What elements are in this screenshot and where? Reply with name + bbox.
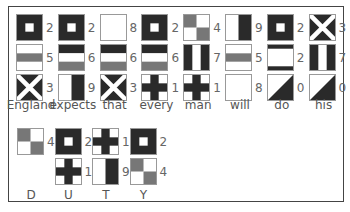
flag-digit: 1 bbox=[122, 135, 130, 149]
signal-flag-diagram: 253England269expects863that261every471ma… bbox=[8, 6, 344, 202]
plain-white-flag-icon bbox=[225, 74, 252, 101]
flag-digit: 9 bbox=[122, 165, 130, 179]
flag-cell: 7 bbox=[183, 44, 225, 74]
quartered-flag-icon bbox=[17, 128, 44, 155]
flag-digit: 2 bbox=[46, 21, 54, 35]
horizontal-stripes-flag-icon bbox=[225, 44, 252, 71]
flag-cell: 2 bbox=[141, 14, 183, 44]
flag-digit: 0 bbox=[297, 81, 305, 95]
flag-cell: 2 bbox=[58, 14, 100, 44]
word-label: his bbox=[299, 98, 349, 112]
letter-label: D bbox=[11, 188, 51, 202]
flag-digit: 4 bbox=[160, 165, 168, 179]
flag-digit: 9 bbox=[255, 21, 263, 35]
vertical-halves-flag-icon bbox=[225, 14, 252, 41]
flag-digit: 8 bbox=[130, 21, 138, 35]
plain-white-flag-icon bbox=[100, 14, 127, 41]
flag-digit: 2 bbox=[171, 21, 179, 35]
flag-digit: 2 bbox=[88, 21, 96, 35]
flag-digit: 3 bbox=[339, 21, 347, 35]
black-square-flag-icon bbox=[16, 14, 43, 41]
flag-digit: 7 bbox=[213, 51, 221, 65]
flag-cell: 1 bbox=[55, 158, 97, 188]
flag-cell: 4 bbox=[183, 14, 225, 44]
flag-cell: 2 bbox=[16, 14, 58, 44]
flag-digit: 6 bbox=[130, 51, 138, 65]
vertical-halves-flag-icon bbox=[58, 74, 85, 101]
flag-cell: 2 bbox=[267, 14, 309, 44]
letter-label: U bbox=[49, 188, 89, 202]
flag-digit: 4 bbox=[47, 135, 55, 149]
flag-digit: 2 bbox=[297, 21, 305, 35]
flag-digit: 8 bbox=[255, 81, 263, 95]
flag-digit: 1 bbox=[213, 81, 221, 95]
cross-flag-icon bbox=[92, 128, 119, 155]
vertical-stripes-flag-icon bbox=[183, 44, 210, 71]
flag-digit: 3 bbox=[130, 81, 138, 95]
vertical-halves-flag-icon bbox=[92, 158, 119, 185]
saltire-flag-icon bbox=[309, 14, 336, 41]
saltire-flag-icon bbox=[100, 74, 127, 101]
flag-digit: 2 bbox=[297, 51, 305, 65]
flag-digit: 0 bbox=[339, 81, 347, 95]
flag-cell: 2 bbox=[55, 128, 97, 158]
flag-cell: 6 bbox=[58, 44, 100, 74]
flag-digit: 4 bbox=[213, 21, 221, 35]
flag-cell: 9 bbox=[225, 14, 267, 44]
flag-cell: 8 bbox=[100, 14, 142, 44]
flag-digit: 5 bbox=[255, 51, 263, 65]
flag-cell: 5 bbox=[16, 44, 58, 74]
flag-cell: 2 bbox=[267, 44, 309, 74]
black-square-flag-icon bbox=[267, 14, 294, 41]
cross-flag-icon bbox=[183, 74, 210, 101]
black-square-flag-icon bbox=[58, 14, 85, 41]
flag-cell: 6 bbox=[100, 44, 142, 74]
flag-digit: 3 bbox=[46, 81, 54, 95]
black-square-flag-icon bbox=[130, 128, 157, 155]
letter-label: T bbox=[86, 188, 126, 202]
black-square-flag-icon bbox=[141, 14, 168, 41]
tricolor-stripes-flag-icon bbox=[58, 44, 85, 71]
horizontal-stripes-flag-icon bbox=[16, 44, 43, 71]
black-square-flag-icon bbox=[55, 128, 82, 155]
flag-digit: 5 bbox=[46, 51, 54, 65]
flag-cell: 7 bbox=[309, 44, 350, 74]
tricolor-stripes-flag-icon bbox=[141, 44, 168, 71]
letter-label: Y bbox=[124, 188, 164, 202]
flag-digit: 7 bbox=[339, 51, 347, 65]
flag-digit: 6 bbox=[88, 51, 96, 65]
flag-cell: 9 bbox=[92, 158, 134, 188]
border-stripes-flag-icon bbox=[267, 44, 294, 71]
flag-cell: 3 bbox=[309, 14, 350, 44]
diagonal-flag-icon bbox=[267, 74, 294, 101]
flag-cell: 6 bbox=[141, 44, 183, 74]
cross-flag-icon bbox=[55, 158, 82, 185]
flag-cell: 4 bbox=[130, 158, 172, 188]
quartered-flag-icon bbox=[183, 14, 210, 41]
saltire-flag-icon bbox=[16, 74, 43, 101]
cross-flag-icon bbox=[141, 74, 168, 101]
flag-digit: 2 bbox=[85, 135, 93, 149]
flag-digit: 9 bbox=[88, 81, 96, 95]
tricolor-stripes-flag-icon bbox=[100, 44, 127, 71]
diagonal-flag-icon bbox=[309, 74, 336, 101]
flag-cell: 4 bbox=[17, 128, 59, 158]
flag-digit: 1 bbox=[85, 165, 93, 179]
flag-cell: 1 bbox=[92, 128, 134, 158]
vertical-stripes-flag-icon bbox=[309, 44, 336, 71]
quartered-flag-icon bbox=[130, 158, 157, 185]
flag-digit: 1 bbox=[171, 81, 179, 95]
flag-cell: 5 bbox=[225, 44, 267, 74]
flag-digit: 2 bbox=[160, 135, 168, 149]
flag-digit: 6 bbox=[171, 51, 179, 65]
flag-cell: 2 bbox=[130, 128, 172, 158]
